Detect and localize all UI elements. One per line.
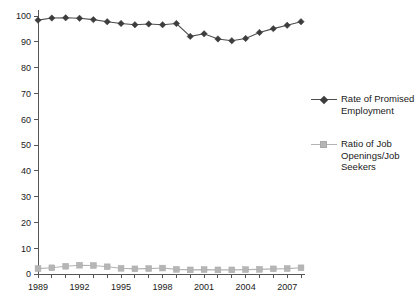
data-point-marker — [118, 265, 124, 271]
data-point-marker — [63, 263, 69, 269]
y-tick-label: 50 — [21, 140, 31, 150]
data-point-marker — [215, 267, 221, 273]
y-tick-label: 60 — [21, 115, 31, 125]
square-marker-gray-icon — [311, 139, 337, 151]
data-point-marker — [270, 266, 276, 272]
y-tick-label: 70 — [21, 89, 31, 99]
x-tick-label: 1989 — [28, 282, 48, 292]
data-point-marker — [146, 21, 152, 27]
y-tick-label: 40 — [21, 166, 31, 176]
data-point-marker — [229, 38, 235, 44]
y-tick-label: 100 — [16, 11, 31, 21]
data-point-marker — [90, 263, 96, 269]
data-point-marker — [187, 267, 193, 273]
x-tick-label: 1998 — [153, 282, 173, 292]
data-point-marker — [77, 262, 83, 268]
diamond-marker-dark-icon — [311, 94, 337, 106]
legend-item-rate-of-promised-employment: Rate of Promised Employment — [311, 93, 415, 116]
y-tick-label: 20 — [21, 218, 31, 228]
data-point-marker — [257, 266, 263, 272]
data-point-marker — [229, 267, 235, 273]
data-point-marker — [256, 29, 262, 35]
data-point-marker — [270, 25, 276, 31]
data-point-marker — [49, 265, 55, 271]
chart-legend: Rate of Promised Employment Ratio of Job… — [311, 93, 415, 195]
data-point-marker — [242, 35, 248, 41]
data-point-marker — [90, 16, 96, 22]
data-point-marker — [201, 267, 207, 273]
data-point-marker — [132, 266, 138, 272]
data-point-marker — [174, 266, 180, 272]
data-point-marker — [159, 22, 165, 28]
legend-label-1: Ratio of Job Openings/Job Seekers — [341, 138, 415, 173]
x-tick-label: 1992 — [70, 282, 90, 292]
data-point-marker — [76, 15, 82, 21]
legend-label-0: Rate of Promised Employment — [341, 93, 415, 116]
data-point-marker — [49, 15, 55, 21]
data-point-marker — [298, 265, 304, 271]
x-tick-label: 2001 — [194, 282, 214, 292]
data-point-marker — [62, 15, 68, 21]
y-tick-label: 0 — [26, 269, 31, 279]
data-point-marker — [104, 18, 110, 24]
chart-container: 0102030405060708090100 19891992199519982… — [0, 0, 415, 301]
x-axis: 1989199219951998200120042007 — [28, 274, 305, 292]
data-point-marker — [132, 22, 138, 28]
series-line-0 — [38, 18, 301, 41]
data-point-marker — [35, 17, 41, 23]
y-tick-label: 10 — [21, 244, 31, 254]
data-point-marker — [284, 22, 290, 28]
data-point-marker — [215, 36, 221, 42]
data-point-marker — [201, 31, 207, 37]
data-point-marker — [35, 266, 41, 272]
data-point-marker — [160, 265, 166, 271]
y-tick-label: 30 — [21, 192, 31, 202]
x-tick-label: 2004 — [236, 282, 256, 292]
data-point-marker — [284, 266, 290, 272]
x-tick-label: 2007 — [277, 282, 297, 292]
data-point-marker — [146, 266, 152, 272]
series-layer — [35, 15, 304, 273]
x-tick-label: 1995 — [111, 282, 131, 292]
data-point-marker — [104, 264, 110, 270]
y-axis: 0102030405060708090100 — [16, 10, 38, 279]
y-tick-label: 80 — [21, 63, 31, 73]
y-tick-label: 90 — [21, 37, 31, 47]
data-point-marker — [118, 20, 124, 26]
data-point-marker — [243, 267, 249, 273]
data-point-marker — [298, 18, 304, 24]
legend-item-ratio-of-job-openings-job-seekers: Ratio of Job Openings/Job Seekers — [311, 138, 415, 173]
